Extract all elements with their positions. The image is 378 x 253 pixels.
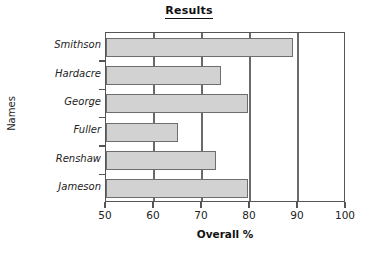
- y-tick-2: [99, 89, 105, 90]
- x-tick-label-90: 90: [277, 209, 317, 221]
- x-tick-70: [200, 202, 201, 208]
- gridline-90: [297, 33, 298, 201]
- chart-title: Results: [0, 4, 378, 17]
- x-axis-title: Overall %: [105, 228, 345, 240]
- bar-smithson: [106, 38, 293, 57]
- x-tick-60: [152, 202, 153, 208]
- x-tick-80: [248, 202, 249, 208]
- y-tick-label-fuller: Fuller: [1, 124, 101, 135]
- x-tick-label-100: 100: [325, 209, 365, 221]
- bar-renshaw: [106, 151, 216, 170]
- y-tick-4: [99, 145, 105, 146]
- y-tick-label-smithson: Smithson: [1, 39, 101, 50]
- y-tick-label-hardacre: Hardacre: [1, 68, 101, 79]
- y-tick-label-george: George: [1, 96, 101, 107]
- gridline-70: [201, 33, 202, 201]
- bar-jameson: [106, 179, 248, 198]
- bar-george: [106, 94, 248, 113]
- bar-chart: Results Names Overall % 5060708090100Smi…: [0, 0, 378, 253]
- y-tick-label-renshaw: Renshaw: [1, 153, 101, 164]
- bar-fuller: [106, 123, 178, 142]
- x-tick-label-50: 50: [85, 209, 125, 221]
- x-tick-label-70: 70: [181, 209, 221, 221]
- gridline-60: [153, 33, 154, 201]
- y-tick-5: [99, 174, 105, 175]
- x-tick-label-80: 80: [229, 209, 269, 221]
- y-tick-3: [99, 117, 105, 118]
- y-tick-1: [99, 60, 105, 61]
- plot-area: [105, 32, 345, 202]
- chart-title-text: Results: [165, 4, 212, 19]
- gridline-80: [249, 33, 250, 201]
- x-tick-50: [104, 202, 105, 208]
- bar-hardacre: [106, 66, 221, 85]
- x-tick-label-60: 60: [133, 209, 173, 221]
- x-tick-90: [296, 202, 297, 208]
- y-tick-label-jameson: Jameson: [1, 181, 101, 192]
- x-tick-100: [344, 202, 345, 208]
